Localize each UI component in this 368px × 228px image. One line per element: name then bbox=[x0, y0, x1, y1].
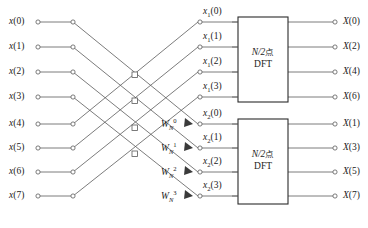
signal-flow-graph bbox=[0, 0, 368, 228]
node-input-0 bbox=[36, 20, 40, 24]
crossing-marker-1 bbox=[132, 98, 138, 104]
output-label-0: X(0) bbox=[343, 16, 360, 26]
node-input-2 bbox=[36, 70, 40, 74]
input-label-7: x(7) bbox=[9, 190, 24, 200]
mid-top-label-2: x1(2) bbox=[203, 56, 222, 70]
node-split-2 bbox=[71, 70, 75, 74]
node-split-0 bbox=[71, 20, 75, 24]
node-output-0 bbox=[333, 20, 337, 24]
node-output-2 bbox=[333, 70, 337, 74]
mid-top-label-1: x1(1) bbox=[203, 31, 222, 45]
mid-top-label-3: x1(3) bbox=[203, 81, 222, 95]
node-split-4 bbox=[71, 122, 75, 126]
node-split-7 bbox=[71, 194, 75, 198]
input-label-3: x(3) bbox=[9, 91, 24, 101]
node-input-7 bbox=[36, 194, 40, 198]
node-mid-top-3 bbox=[198, 95, 202, 99]
output-label-5: X(3) bbox=[343, 142, 360, 152]
node-mid-bottom-1 bbox=[198, 146, 202, 150]
node-mid-bottom-3 bbox=[198, 194, 202, 198]
input-label-2: x(2) bbox=[9, 66, 24, 76]
node-output-7 bbox=[333, 194, 337, 198]
twiddle-arrowheads bbox=[184, 118, 193, 199]
node-output-5 bbox=[333, 146, 337, 150]
input-label-1: x(1) bbox=[9, 41, 24, 51]
crossing-markers bbox=[132, 72, 138, 157]
output-lines bbox=[288, 22, 333, 196]
node-mid-bottom-2 bbox=[198, 170, 202, 174]
node-mid-top-0 bbox=[198, 20, 202, 24]
node-output-6 bbox=[333, 170, 337, 174]
node-input-1 bbox=[36, 45, 40, 49]
input-label-5: x(5) bbox=[9, 142, 24, 152]
node-split-1 bbox=[71, 45, 75, 49]
node-mid-top-1 bbox=[198, 45, 202, 49]
dft-block-top-label: N/2点DFT bbox=[238, 47, 288, 70]
mid-bottom-label-2: x2(2) bbox=[203, 156, 222, 170]
crossing-marker-0 bbox=[132, 72, 138, 78]
node-input-6 bbox=[36, 170, 40, 174]
node-split-6 bbox=[71, 170, 75, 174]
output-label-6: X(5) bbox=[343, 166, 360, 176]
mid-bottom-label-1: x2(1) bbox=[203, 132, 222, 146]
dft-blocks bbox=[238, 17, 288, 204]
node-output-3 bbox=[333, 95, 337, 99]
twiddle-arrow-0 bbox=[184, 118, 193, 127]
node-split-5 bbox=[71, 146, 75, 150]
node-input-4 bbox=[36, 122, 40, 126]
node-mid-top-2 bbox=[198, 70, 202, 74]
node-input-3 bbox=[36, 95, 40, 99]
node-mid-bottom-0 bbox=[198, 122, 202, 126]
dft-block-bottom-label: N/2点DFT bbox=[238, 149, 288, 172]
mid-top-label-0: x1(0) bbox=[203, 6, 222, 20]
output-label-2: X(4) bbox=[343, 66, 360, 76]
mid-bottom-label-0: x2(0) bbox=[203, 108, 222, 122]
twiddle-label-3: WN3 bbox=[161, 188, 177, 205]
output-label-3: X(6) bbox=[343, 91, 360, 101]
input-label-6: x(6) bbox=[9, 166, 24, 176]
mid-bottom-label-3: x2(3) bbox=[203, 180, 222, 194]
crossing-marker-3 bbox=[132, 151, 138, 157]
node-input-5 bbox=[36, 146, 40, 150]
node-output-1 bbox=[333, 45, 337, 49]
output-label-1: X(2) bbox=[343, 41, 360, 51]
twiddle-label-2: WN2 bbox=[161, 164, 177, 181]
figure-canvas: 按序号分解为偶数与奇数两组的图解 bbox=[0, 0, 368, 228]
input-label-4: x(4) bbox=[9, 118, 24, 128]
twiddle-label-0: WN0 bbox=[161, 116, 177, 133]
input-label-0: x(0) bbox=[9, 16, 24, 26]
twiddle-label-1: WN1 bbox=[161, 140, 177, 157]
output-label-4: X(1) bbox=[343, 118, 360, 128]
node-split-3 bbox=[71, 95, 75, 99]
crossing-marker-2 bbox=[132, 125, 138, 131]
output-label-7: X(7) bbox=[343, 190, 360, 200]
node-output-4 bbox=[333, 122, 337, 126]
input-stub-lines bbox=[40, 22, 71, 196]
